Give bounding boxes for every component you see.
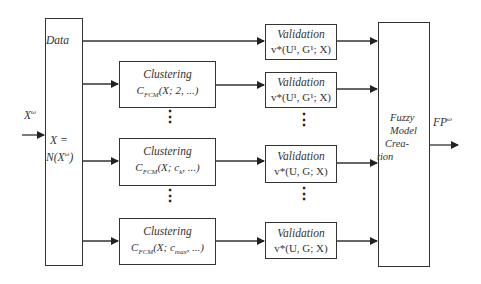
clustering-title: Clustering — [120, 68, 215, 80]
clustering-box-2: Clustering CFCM(X; ck, ...) — [119, 138, 216, 186]
fn-args: (X; 2, ...) — [159, 84, 199, 96]
input-symbol: X — [24, 109, 31, 121]
validation-box-4: Validation v*(U, G; X) — [265, 222, 337, 259]
ellipsis-validation-1: ⋮ — [296, 117, 306, 123]
clustering-box-1: Clustering CFCM(X; 2, ...) — [119, 61, 216, 108]
output-label: FPω — [433, 115, 452, 128]
input-label: Xω — [24, 108, 36, 121]
fn-subscript: FCM — [138, 248, 153, 256]
validation-formula: v*(U, G; X) — [266, 242, 336, 254]
clustering-formula: CFCM(X; 2, ...) — [120, 84, 215, 99]
fn-args-end: , ...) — [182, 161, 199, 173]
fuzzy-label-line3: Crea- — [385, 138, 409, 149]
clustering-title: Clustering — [120, 225, 215, 237]
normalization-box: Data X = N(Xω) — [45, 18, 83, 266]
validation-formula: v*(U¹, G¹; X) — [266, 43, 336, 55]
arg-subscript: max — [175, 248, 187, 256]
clustering-box-3: Clustering CFCM(X; cmax, ...) — [119, 218, 216, 265]
validation-box-3: Validation v*(U, G; X) — [265, 145, 337, 183]
fn-subscript: FCM — [143, 168, 158, 176]
output-superscript: ω — [447, 115, 452, 123]
clustering-title: Clustering — [120, 145, 215, 157]
ellipsis-validation-2: ⋮ — [296, 191, 306, 197]
validation-formula: v*(U, G; X) — [266, 165, 336, 177]
fn-symbol: C — [137, 84, 144, 96]
normalization-fn: N(X — [46, 151, 65, 163]
fuzzy-label-line2: Model — [390, 125, 417, 136]
fn-symbol: C — [135, 161, 142, 173]
validation-formula: v*(U¹, G¹; X) — [266, 91, 336, 103]
normalization-formula-line2: N(Xω) — [46, 150, 73, 163]
fn-args-end: , ...) — [187, 241, 204, 253]
validation-box-1: Validation v*(U¹, G¹; X) — [265, 24, 337, 60]
fn-subscript: FCM — [144, 91, 159, 99]
fn-args: (X; c — [157, 161, 179, 173]
clustering-formula: CFCM(X; ck, ...) — [120, 161, 215, 176]
fuzzy-label-line1: Fuzzy — [390, 112, 415, 123]
normalization-close: ) — [69, 151, 73, 163]
ellipsis-clustering-2: ⋮ — [162, 193, 172, 199]
fuzzy-model-box: Fuzzy Model Crea- tion — [378, 22, 430, 267]
fuzzy-label-line4: tion — [377, 151, 393, 162]
validation-title: Validation — [266, 76, 336, 88]
validation-title: Validation — [266, 28, 336, 40]
output-symbol: FP — [433, 116, 447, 128]
input-superscript: ω — [31, 108, 36, 116]
fn-args: (X; c — [153, 241, 175, 253]
validation-title: Validation — [266, 150, 336, 162]
validation-box-2: Validation v*(U¹, G¹; X) — [265, 72, 337, 108]
ellipsis-clustering-1: ⋮ — [162, 114, 172, 120]
validation-title: Validation — [266, 227, 336, 239]
normalization-formula-line1: X = — [50, 134, 68, 146]
data-label: Data — [46, 34, 69, 46]
clustering-formula: CFCM(X; cmax, ...) — [120, 241, 215, 256]
